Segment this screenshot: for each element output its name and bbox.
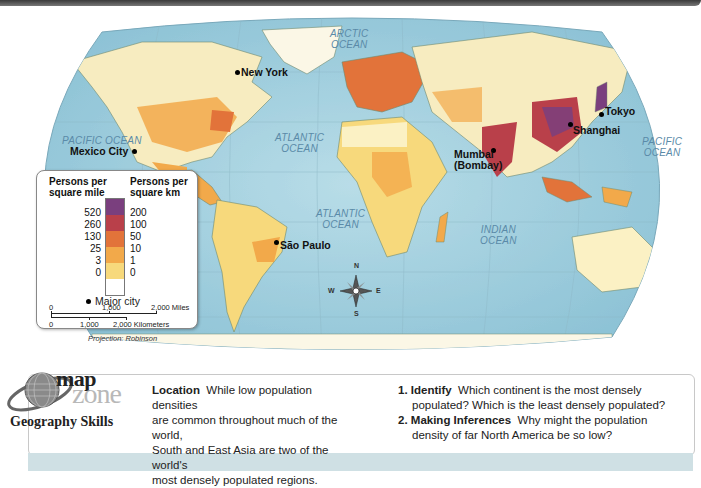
city-marker-new-york <box>235 70 240 75</box>
question-text: Why might the population <box>518 414 648 426</box>
scale-tick <box>156 311 157 314</box>
legend-km-value: 50 <box>130 232 141 242</box>
location-line: South and East Asia are two of the world… <box>152 443 352 473</box>
legend-header-km: Persons persquare km <box>130 176 188 198</box>
compass-south: S <box>354 310 359 317</box>
ocean-label-arctic: ARCTICOCEAN <box>330 28 368 50</box>
panel-bottom-strip <box>28 453 693 471</box>
city-label-shanghai: Shanghai <box>573 124 620 136</box>
legend-header-mile: Persons persquare mile <box>49 176 107 198</box>
legend-swatch-5 <box>106 263 124 279</box>
ocean-label-indian: INDIANOCEAN <box>480 224 517 246</box>
compass-east: E <box>376 287 381 294</box>
scale-km-1000: 1,000 <box>80 320 99 329</box>
ocean-label-atlantic-north: ATLANTICOCEAN <box>275 132 324 154</box>
location-line: are common throughout much of the world, <box>152 413 352 443</box>
mapzone-logo: map zone Geography Skills <box>6 362 142 442</box>
legend-mile-value: 130 <box>73 232 101 242</box>
legend-swatch-2 <box>106 215 124 231</box>
map-legend: Persons persquare mile Persons persquare… <box>36 170 198 329</box>
city-label-tokyo: Tokyo <box>605 105 635 117</box>
projection-label: Projection: Robinson <box>88 334 157 343</box>
city-marker-mexico-city <box>132 149 137 154</box>
legend-mile-value: 260 <box>73 220 101 230</box>
ocean-label-atlantic-south: ATLANTICOCEAN <box>316 208 365 230</box>
question-heading: Making Inferences <box>411 414 511 426</box>
question-text: density of far North America be so low? <box>398 428 698 443</box>
legend-mile-value: 0 <box>73 268 101 278</box>
legend-swatch-6 <box>106 279 124 295</box>
major-city-dot-icon <box>86 299 91 304</box>
skill-questions: 1. Identify Which continent is the most … <box>398 383 698 443</box>
question-text: Which continent is the most densely <box>458 384 641 396</box>
city-label-sao-paulo: São Paulo <box>280 239 331 251</box>
legend-mile-value: 25 <box>73 244 101 254</box>
scale-bar <box>51 313 157 314</box>
mapzone-logo-zone: zone <box>72 378 121 410</box>
question-1: 1. Identify Which continent is the most … <box>398 383 698 413</box>
question-text: populated? Which is the least densely po… <box>398 398 698 413</box>
legend-km-value: 1 <box>130 256 136 266</box>
scale-tick <box>109 311 110 314</box>
city-marker-tokyo <box>599 112 604 117</box>
legend-km-value: 200 <box>130 208 147 218</box>
question-number: 1. <box>398 384 408 396</box>
city-marker-sao-paulo <box>274 240 279 245</box>
header-bar <box>0 0 701 6</box>
ocean-label-pacific-east: PACIFICOCEAN <box>642 136 682 158</box>
question-number: 2. <box>398 414 408 426</box>
geography-skills-title: Geography Skills <box>10 414 113 430</box>
location-paragraph: Location While low population densities … <box>152 383 352 488</box>
scale-km-2000: 2,000 Kilometers <box>113 320 169 329</box>
compass-west: W <box>328 287 335 294</box>
location-line: most densely populated regions. <box>152 473 352 488</box>
legend-km-value: 0 <box>130 268 136 278</box>
legend-km-value: 100 <box>130 220 147 230</box>
legend-swatch-3 <box>106 231 124 247</box>
city-label-mexico-city: Mexico City <box>70 145 128 157</box>
compass-north: N <box>354 262 359 269</box>
question-2: 2. Making Inferences Why might the popul… <box>398 413 698 443</box>
location-heading: Location <box>152 384 200 396</box>
legend-color-bar <box>105 198 125 296</box>
question-heading: Identify <box>411 384 452 396</box>
city-label-mumbai: Mumbai(Bombay) <box>454 149 502 171</box>
legend-swatch-4 <box>106 247 124 263</box>
legend-mile-value: 520 <box>73 208 101 218</box>
scale-km-0: 0 <box>49 320 53 329</box>
legend-km-value: 10 <box>130 244 141 254</box>
legend-swatch-1 <box>106 199 124 215</box>
scale-miles-1000: 1,000 <box>102 303 121 312</box>
legend-mile-value: 3 <box>73 256 101 266</box>
city-label-new-york: New York <box>241 66 288 78</box>
